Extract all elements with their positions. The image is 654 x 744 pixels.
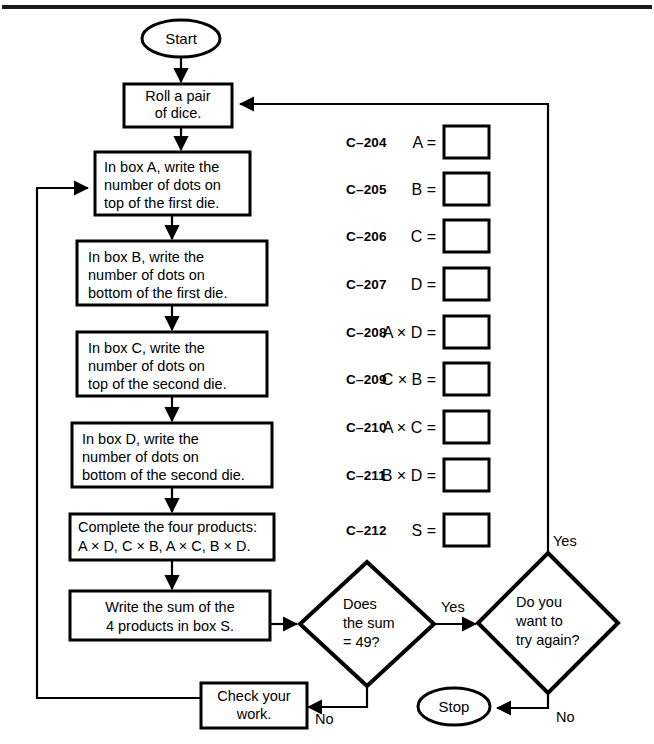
node-box-b: In box B, write the number of dots on bo… — [77, 241, 267, 305]
sum-line-1: Write the sum of the — [105, 599, 234, 615]
node-check: Check your work. — [201, 683, 307, 728]
answer-code: C–211 — [346, 468, 386, 483]
products-line-2: A × D, C × B, A × C, B × D. — [78, 538, 250, 554]
answer-expression: B × D = — [382, 467, 436, 484]
answer-code: C–212 — [346, 523, 387, 538]
stop-label: Stop — [439, 698, 470, 715]
answer-input-box[interactable] — [444, 514, 489, 546]
answer-expression: D = — [411, 276, 436, 293]
answer-input-box[interactable] — [444, 316, 489, 348]
answer-input-box[interactable] — [444, 363, 489, 395]
answer-code: C–208 — [346, 325, 387, 340]
box-c-line-3: top of the second die. — [88, 376, 227, 392]
answer-code: C–206 — [346, 229, 387, 244]
box-c-line-1: In box C, write the — [88, 340, 205, 356]
answer-code: C–209 — [346, 372, 387, 387]
box-d-line-2: number of dots on — [82, 449, 199, 465]
products-line-1: Complete the four products: — [78, 519, 257, 535]
answer-row: C–208 A × D = — [346, 316, 489, 348]
roll-line-2: of dice. — [155, 105, 202, 121]
decision2-line-1: Do you — [516, 594, 562, 610]
flowchart-diagram: Start Roll a pair of dice. In box A, wri… — [0, 0, 654, 744]
node-start: Start — [142, 20, 220, 57]
node-box-c: In box C, write the number of dots on to… — [77, 332, 267, 396]
box-d-line-3: bottom of the second die. — [82, 467, 245, 483]
check-line-1: Check your — [217, 688, 291, 704]
answer-input-box[interactable] — [444, 173, 489, 205]
answer-row: C–209 C × B = — [346, 363, 489, 395]
box-a-line-1: In box A, write the — [104, 159, 219, 175]
answer-code: C–204 — [346, 135, 387, 150]
node-box-d: In box D, write the number of dots on bo… — [72, 423, 272, 487]
answer-row: C–211 B × D = — [346, 459, 489, 491]
answer-expression: C = — [411, 228, 436, 245]
answer-input-box[interactable] — [444, 220, 489, 252]
answer-row: C–204 A = — [346, 126, 489, 158]
branch-label-decision1-no: No — [315, 711, 334, 727]
answer-expression: C × B = — [382, 371, 436, 388]
decision1-line-3: = 49? — [343, 634, 380, 650]
answer-code: C–210 — [346, 420, 387, 435]
box-a-line-2: number of dots on — [104, 177, 221, 193]
answer-code: C–205 — [346, 182, 387, 197]
answer-row: C–207 D = — [346, 268, 489, 300]
decision2-line-3: try again? — [516, 632, 580, 648]
box-b-line-2: number of dots on — [88, 267, 205, 283]
connector-decision2-no-to-stop — [497, 693, 548, 708]
answer-input-box[interactable] — [444, 268, 489, 300]
answer-expression: A × C = — [383, 419, 436, 436]
start-label: Start — [165, 30, 198, 47]
node-sum: Write the sum of the 4 products in box S… — [70, 591, 270, 640]
branch-label-decision1-yes: Yes — [441, 599, 465, 615]
node-stop: Stop — [418, 688, 490, 725]
node-products: Complete the four products: A × D, C × B… — [70, 514, 274, 560]
connector-decision1-no-to-check — [308, 687, 367, 707]
answer-input-box[interactable] — [444, 459, 489, 491]
answer-row: C–205 B = — [346, 173, 489, 205]
answer-row: C–212 S = — [346, 514, 489, 546]
answer-row: C–206 C = — [346, 220, 489, 252]
answer-expression: B = — [412, 181, 436, 198]
decision-sum-check: Does the sum = 49? — [300, 562, 434, 686]
decision2-line-2: want to — [515, 613, 563, 629]
answer-expression: S = — [412, 522, 436, 539]
roll-line-1: Roll a pair — [145, 88, 210, 104]
answer-input-box[interactable] — [444, 411, 489, 443]
answer-expression: A = — [412, 134, 436, 151]
decision1-line-1: Does — [343, 596, 377, 612]
answer-expression: A × D = — [383, 324, 436, 341]
box-b-line-1: In box B, write the — [88, 249, 204, 265]
decision1-line-2: the sum — [343, 615, 395, 631]
decision-try-again: Do you want to try again? — [478, 553, 618, 693]
box-d-line-1: In box D, write the — [82, 431, 199, 447]
answer-list: C–204 A = C–205 B = C–206 C = C–207 — [346, 126, 489, 546]
box-a-line-3: top of the first die. — [104, 195, 219, 211]
answer-input-box[interactable] — [444, 126, 489, 158]
box-b-line-3: bottom of the first die. — [88, 285, 227, 301]
branch-label-decision2-yes: Yes — [553, 533, 577, 549]
answer-code: C–207 — [346, 277, 387, 292]
branch-label-decision2-no: No — [556, 709, 575, 725]
check-line-2: work. — [236, 706, 272, 722]
answer-row: C–210 A × C = — [346, 411, 489, 443]
box-c-line-2: number of dots on — [88, 358, 205, 374]
node-box-a: In box A, write the number of dots on to… — [95, 152, 250, 215]
node-roll: Roll a pair of dice. — [124, 84, 232, 127]
sum-line-2: 4 products in box S. — [106, 618, 234, 634]
